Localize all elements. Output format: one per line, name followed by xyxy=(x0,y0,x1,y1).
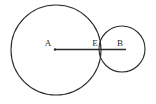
geometry-figure: A E B xyxy=(0,0,156,104)
figure-svg: A E B xyxy=(0,0,156,104)
label-point-e: E xyxy=(92,38,98,48)
label-point-b: B xyxy=(117,38,123,48)
point-a-marker xyxy=(54,48,56,50)
label-point-a: A xyxy=(45,38,52,48)
